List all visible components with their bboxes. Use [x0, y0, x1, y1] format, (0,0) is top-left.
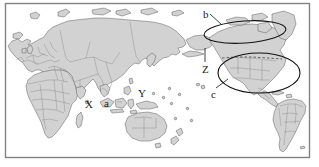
map-label-c: c — [211, 89, 216, 100]
world-map-svg — [0, 0, 319, 167]
land-taiwan — [129, 78, 133, 84]
annotated-world-map-figure: b Z c X a Y — [0, 0, 319, 167]
land-tasmania — [155, 143, 161, 148]
map-label-y: Y — [138, 88, 146, 99]
map-label-z: Z — [202, 64, 209, 75]
land-java — [110, 109, 124, 113]
land-timor — [130, 110, 137, 114]
land-ireland — [22, 48, 26, 53]
map-label-b: b — [203, 9, 209, 20]
map-label-a: a — [104, 98, 109, 109]
map-label-x: X — [85, 99, 93, 110]
